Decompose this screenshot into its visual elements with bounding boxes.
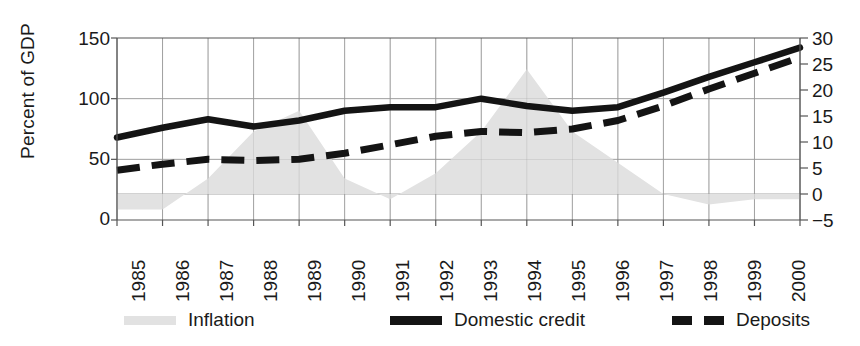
legend-item-domestic-credit[interactable]: Domestic credit (390, 306, 585, 334)
legend-item-inflation[interactable]: Inflation (124, 306, 255, 334)
inflation-area (117, 69, 800, 209)
legend-label-inflation: Inflation (188, 309, 255, 331)
area-swatch-icon (124, 316, 176, 325)
legend-label-deposits: Deposits (736, 309, 810, 331)
solid-line-swatch-icon (390, 316, 442, 325)
dashed-line-swatch-icon (672, 316, 724, 325)
chart-figure: Percent of GDP 150 100 50 0 30 25 20 15 … (0, 0, 860, 346)
series-lines (117, 48, 800, 171)
legend-label-domestic-credit: Domestic credit (454, 309, 585, 331)
legend-item-deposits[interactable]: Deposits (672, 306, 810, 334)
plot-area (0, 0, 860, 346)
chart-legend: Inflation Domestic credit Deposits (0, 300, 860, 340)
